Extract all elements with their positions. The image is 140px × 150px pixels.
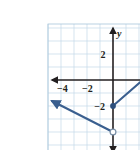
y-tick-label-2: 2 bbox=[101, 49, 106, 60]
x-tick-label-neg4: −4 bbox=[57, 83, 68, 94]
closed-dot-endpoint bbox=[110, 103, 116, 109]
y-axis-label: y bbox=[116, 28, 122, 39]
open-circle-endpoint bbox=[110, 129, 116, 135]
y-tick-label-neg2: −2 bbox=[94, 101, 105, 112]
coordinate-graph-figure: −4 −2 4 2 −2 x y bbox=[40, 16, 140, 150]
graph-canvas: −4 −2 4 2 −2 x y bbox=[40, 16, 140, 150]
x-tick-label-neg2: −2 bbox=[82, 83, 93, 94]
